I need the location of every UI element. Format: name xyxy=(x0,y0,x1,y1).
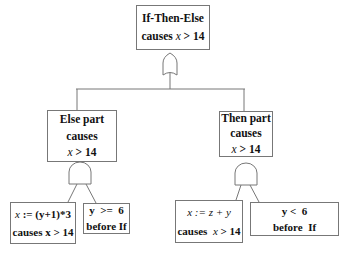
then-assignment-stmt: x := z + y xyxy=(187,203,231,221)
root-title: If-Then-Else xyxy=(142,10,204,27)
leaf-else-assignment: x := (y+1)*3 causes x > 14 xyxy=(10,202,76,244)
then-precondition-expr: y < 6 xyxy=(282,203,308,220)
then-condition: x > 14 xyxy=(232,142,261,158)
then-precondition-when: before If xyxy=(273,219,316,236)
else-causes: causes xyxy=(66,128,97,145)
else-assignment-stmt: x := (y+1)*3 xyxy=(15,205,71,223)
then-part-box: Then part causes x > 14 xyxy=(219,111,273,157)
or-gate-icon xyxy=(163,53,177,75)
else-condition: x > 14 xyxy=(68,144,97,161)
else-assignment-effect: causes x > 14 xyxy=(13,223,74,241)
leaf-then-assignment: x := z + y causes x > 14 xyxy=(175,200,243,243)
root-condition: causes x > 14 xyxy=(141,28,204,45)
else-precondition-expr: y >= 6 xyxy=(89,203,124,218)
leaf-else-precondition: y >= 6 before If xyxy=(83,203,130,234)
root-event-box: If-Then-Else causes x > 14 xyxy=(136,5,210,50)
and-gate-icon xyxy=(235,163,257,185)
leaf-then-precondition: y < 6 before If xyxy=(250,202,339,236)
and-gate-icon xyxy=(69,162,91,184)
else-title: Else part xyxy=(60,111,104,128)
then-assignment-effect: causes x > 14 xyxy=(177,222,240,240)
else-precondition-when: before If xyxy=(86,219,126,234)
else-part-box: Else part causes x > 14 xyxy=(47,110,117,162)
then-title: Then part xyxy=(221,111,271,127)
then-causes: causes xyxy=(230,126,261,142)
